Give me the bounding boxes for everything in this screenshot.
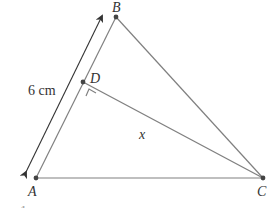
- cut-off-text: … 1 …: [4, 202, 43, 208]
- point-d: [81, 80, 86, 85]
- label-length-ab: 6 cm: [28, 83, 56, 98]
- point-b: [114, 15, 119, 20]
- label-d: D: [89, 71, 100, 86]
- point-c: [261, 176, 266, 181]
- segment-bc: [116, 17, 263, 178]
- point-a: [34, 176, 39, 181]
- label-c: C: [257, 184, 267, 199]
- segment-dc: [83, 82, 263, 178]
- triangle-diagram: B A C D x 6 cm … 1 …: [0, 0, 278, 208]
- label-x: x: [138, 127, 146, 142]
- right-angle-marker: [86, 89, 96, 96]
- label-a: A: [27, 184, 37, 199]
- label-b: B: [112, 0, 121, 15]
